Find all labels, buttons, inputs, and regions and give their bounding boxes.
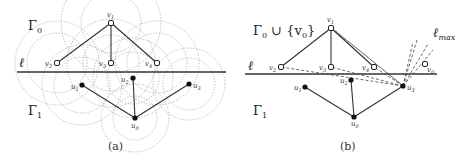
dotted-circles (15, 0, 225, 152)
label-v4: v4 (145, 60, 152, 69)
vertex-u0 (132, 115, 137, 120)
label-u1-b: u1 (294, 84, 302, 93)
panel-b: Γ0 ∪ {v0} Γ1 ℓ ℓmax v1 v2 v3 v4 v0 u1 u2… (245, 16, 456, 153)
label-v3: v3 (99, 60, 106, 69)
vertex-u0-b (351, 114, 356, 119)
label-v4-b: v4 (362, 64, 369, 73)
label-gamma0: Γ0 (28, 18, 42, 35)
label-gamma1-b: Γ1 (253, 103, 267, 120)
label-ell-b: ℓ (248, 58, 254, 73)
edges-b (281, 28, 403, 117)
label-u3: u3 (193, 82, 201, 91)
vertex-v1 (109, 21, 114, 26)
label-u0: u0 (131, 122, 140, 131)
filled-vertices (79, 75, 191, 120)
vertex-u2 (130, 75, 135, 80)
label-v1-b: v1 (327, 16, 334, 25)
vertex-u3-b (400, 83, 405, 88)
caption-a: (a) (108, 140, 123, 153)
label-ellmax: ℓmax (433, 25, 456, 42)
vertex-u1 (79, 82, 84, 87)
label-gamma0-union: Γ0 ∪ {v0} (253, 23, 315, 40)
vertex-v1-b (329, 26, 334, 31)
diagram-canvas: Γ0 Γ1 ℓ v1 v2 v3 v4 u1 u2 u3 u0 (a) (0, 0, 467, 166)
vertex-v3-b (329, 65, 334, 70)
caption-b: (b) (340, 140, 356, 153)
label-v1: v1 (107, 11, 114, 20)
label-u0-b: u0 (351, 120, 360, 129)
panel-a: Γ0 Γ1 ℓ v1 v2 v3 v4 u1 u2 u3 u0 (a) (15, 0, 226, 153)
vertex-v2-b (279, 65, 284, 70)
vertex-v4 (155, 61, 160, 66)
label-v2: v2 (45, 60, 52, 69)
label-v2-b: v2 (269, 64, 276, 73)
open-vertices (55, 21, 160, 66)
label-ell: ℓ (19, 55, 25, 70)
label-v3-b: v3 (319, 64, 326, 73)
label-u1: u1 (71, 83, 79, 92)
label-u2: u2 (121, 76, 129, 85)
vertex-u1-b (302, 84, 307, 89)
label-u3-b: u3 (407, 84, 415, 93)
edges (57, 23, 189, 118)
vertex-u2-b (348, 77, 353, 82)
label-v0-b: v0 (427, 66, 435, 75)
vertex-v4-b (372, 65, 377, 70)
vertex-u3 (186, 81, 191, 86)
label-u2-b: u2 (340, 77, 348, 86)
vertex-v3 (109, 61, 114, 66)
label-gamma1: Γ1 (28, 103, 42, 120)
vertex-v2 (55, 61, 60, 66)
